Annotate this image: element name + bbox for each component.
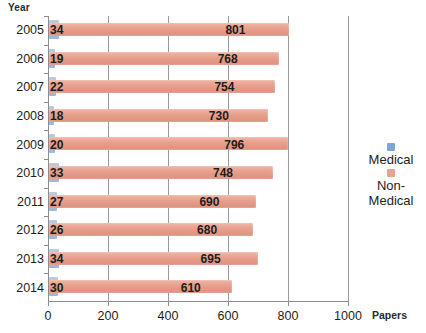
x-axis-tick	[348, 302, 349, 306]
chart-legend: Medical Non-Medical	[358, 143, 424, 210]
bar-row: 201334695	[48, 245, 348, 274]
bar-value-label-medical: 22	[50, 80, 63, 94]
legend-swatch-medical-icon	[387, 143, 395, 151]
bar-value-label-medical: 26	[50, 223, 63, 237]
x-axis-tick-label: 200	[98, 309, 119, 323]
bar-value-label-medical: 33	[50, 166, 63, 180]
x-axis-tick	[108, 302, 109, 306]
y-axis-tick-label: 2010	[2, 166, 44, 180]
y-axis-tick	[44, 159, 48, 160]
y-axis-tick	[44, 130, 48, 131]
bar-non-medical	[49, 23, 289, 36]
bar-value-label-non-medical: 695	[201, 252, 221, 266]
x-axis-tick-label: 0	[45, 309, 52, 323]
y-axis-tick-label: 2007	[2, 80, 44, 94]
x-axis-tick	[228, 302, 229, 306]
bar-row: 200534801	[48, 16, 348, 45]
bar-row: 201033748	[48, 159, 348, 188]
x-axis-tick-label: 400	[158, 309, 179, 323]
bar-non-medical	[49, 109, 268, 122]
bar-value-label-medical: 27	[50, 195, 63, 209]
bar-value-label-non-medical: 610	[181, 281, 201, 295]
legend-item-medical: Medical	[358, 143, 424, 167]
bar-row: 200722754	[48, 73, 348, 102]
bar-row: 200920796	[48, 130, 348, 159]
bar-rows: 2005348012006197682007227542008187302009…	[48, 16, 348, 302]
bar-value-label-non-medical: 748	[213, 166, 233, 180]
x-axis-tick-label: 800	[278, 309, 299, 323]
x-axis-tick	[288, 302, 289, 306]
y-axis-tick-label: 2013	[2, 252, 44, 266]
bar-non-medical	[49, 252, 258, 265]
y-axis-title: Year	[8, 2, 30, 13]
legend-swatch-non-medical-icon	[387, 169, 395, 177]
legend-item-non-medical: Non-Medical	[358, 169, 424, 208]
bar-value-label-non-medical: 796	[224, 138, 244, 152]
y-axis-tick	[44, 73, 48, 74]
x-axis-title: Papers	[372, 309, 407, 321]
bar-non-medical	[49, 195, 256, 208]
bar-non-medical	[49, 137, 288, 150]
y-axis-tick-label: 2014	[2, 281, 44, 295]
y-axis-tick	[44, 273, 48, 274]
bar-non-medical	[49, 52, 279, 65]
bar-value-label-non-medical: 730	[209, 109, 229, 123]
gridline	[348, 16, 349, 302]
bar-value-label-non-medical: 754	[214, 80, 234, 94]
y-axis-tick	[44, 216, 48, 217]
bar-value-label-medical: 34	[50, 252, 63, 266]
y-axis-tick-label: 2012	[2, 223, 44, 237]
bar-row: 200818730	[48, 102, 348, 131]
x-axis-ticks: 02004006008001000	[48, 302, 348, 330]
bar-non-medical	[49, 223, 253, 236]
bar-value-label-medical: 18	[50, 109, 63, 123]
bar-row: 201127690	[48, 188, 348, 217]
bar-value-label-non-medical: 801	[225, 23, 245, 37]
y-axis-tick	[44, 16, 48, 17]
x-axis-tick	[48, 302, 49, 306]
bar-value-label-medical: 19	[50, 52, 63, 66]
bar-row: 201226680	[48, 216, 348, 245]
y-axis-tick-label: 2011	[2, 195, 44, 209]
y-axis-tick-label: 2008	[2, 109, 44, 123]
bar-row: 201430610	[48, 273, 348, 302]
bar-value-label-medical: 30	[50, 281, 63, 295]
bar-non-medical	[49, 80, 275, 93]
bar-value-label-non-medical: 768	[218, 52, 238, 66]
bar-row: 200619768	[48, 45, 348, 74]
bar-value-label-non-medical: 680	[197, 223, 217, 237]
legend-label-medical: Medical	[358, 152, 424, 167]
plot-area: 2005348012006197682007227542008187302009…	[48, 16, 348, 302]
bar-non-medical	[49, 280, 232, 293]
y-axis-tick	[44, 45, 48, 46]
bar-chart: Year 20053480120061976820072275420081873…	[0, 0, 426, 333]
bar-value-label-medical: 20	[50, 138, 63, 152]
x-axis-tick-label: 600	[218, 309, 239, 323]
y-axis-tick	[44, 102, 48, 103]
bar-value-label-medical: 34	[50, 23, 63, 37]
legend-label-non-medical: Non-Medical	[358, 178, 424, 208]
x-axis-tick	[168, 302, 169, 306]
bar-value-label-non-medical: 690	[199, 195, 219, 209]
y-axis-tick	[44, 245, 48, 246]
x-axis-tick-label: 1000	[334, 309, 362, 323]
bar-non-medical	[49, 166, 273, 179]
y-axis-tick-label: 2009	[2, 138, 44, 152]
y-axis-tick	[44, 188, 48, 189]
y-axis-tick-label: 2006	[2, 52, 44, 66]
y-axis-tick-label: 2005	[2, 23, 44, 37]
